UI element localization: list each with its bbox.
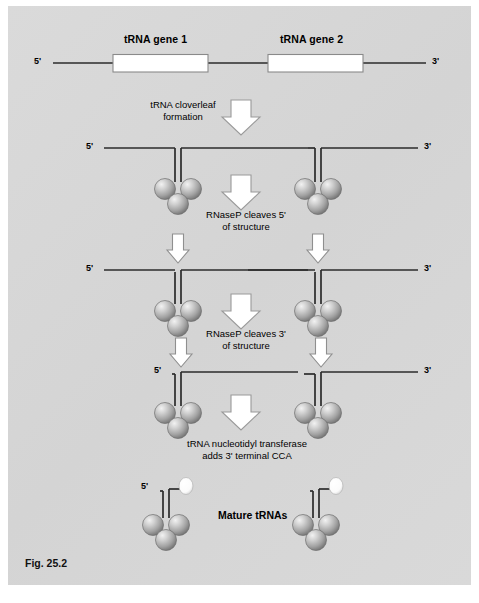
cleaved5-structure-left [104, 270, 308, 337]
step-1-line-1: tRNA cloverleaf [128, 99, 238, 111]
mature-trna-left [143, 478, 194, 551]
gene-2-label: tRNA gene 2 [280, 33, 343, 46]
cleaved3-structure-left [155, 372, 299, 439]
cca-terminal-left [179, 478, 193, 495]
diagram-graphics [8, 6, 471, 585]
step-4-line-2: adds 3' terminal CCA [154, 450, 340, 462]
step-3-line-1: RNaseP cleaves 3' [186, 328, 306, 340]
cloverleaf-structure-left [104, 148, 308, 215]
gene-1-label: tRNA gene 1 [124, 33, 187, 46]
cleavage-arrow-left-1 [167, 234, 189, 263]
step-2-line-1: RNaseP cleaves 5' [186, 209, 306, 221]
cca-terminal-right [329, 478, 343, 495]
row2-five-prime-label: 5' [86, 141, 93, 153]
row3-five-prime-label: 5' [86, 263, 93, 275]
cleaved3-structure-right [295, 372, 419, 439]
row1-three-prime-label: 3' [432, 56, 439, 68]
row3-three-prime-label: 3' [424, 263, 431, 275]
row1-five-prime-label: 5' [34, 56, 41, 68]
step-1-line-2: formation [128, 111, 238, 123]
gene-box-1 [113, 55, 208, 73]
step-arrow-4 [222, 395, 260, 430]
cleavage-arrow-right-2 [310, 338, 332, 367]
gene-box-2 [268, 55, 363, 73]
step-3-line-2: of structure [186, 340, 306, 352]
step-2-line-2: of structure [186, 221, 306, 233]
cleaved5-structure-right [248, 270, 418, 337]
step-4-line-1: tRNA nucleotidyl transferase [154, 438, 340, 450]
cloverleaf-structure-right [295, 148, 419, 215]
step-arrow-2 [222, 175, 260, 210]
figure-caption: Fig. 25.2 [25, 557, 67, 569]
mature-trnas-label: Mature tRNAs [218, 509, 287, 522]
row4-five-prime-label: 5' [154, 365, 161, 377]
precursor-transcript-line [53, 55, 426, 73]
figure-panel: tRNA gene 1 tRNA gene 2 5' 3' tRNA clove… [8, 6, 471, 585]
row5-five-prime-label: 5' [141, 481, 148, 493]
cleavage-arrow-right-1 [307, 234, 329, 263]
mature-trna-right [293, 478, 344, 551]
row2-three-prime-label: 3' [424, 141, 431, 153]
step-arrow-3 [222, 294, 260, 329]
row4-three-prime-label: 3' [424, 365, 431, 377]
